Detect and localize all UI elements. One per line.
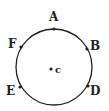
point-b-dot (85, 47, 88, 50)
point-a-dot (52, 27, 55, 30)
label-a: A (48, 10, 59, 24)
point-f-dot (19, 45, 22, 48)
point-e-dot (18, 85, 21, 88)
main-circle (16, 29, 92, 105)
label-center: c (55, 64, 61, 75)
circle-diagram: A B D E F c (0, 0, 109, 111)
center-dot (49, 67, 52, 70)
label-d: D (90, 84, 100, 98)
label-b: B (90, 39, 100, 53)
label-e: E (6, 84, 15, 98)
label-f: F (8, 37, 17, 51)
